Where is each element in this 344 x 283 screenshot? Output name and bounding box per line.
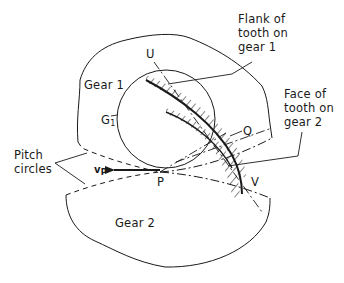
label-face-line2: tooth on — [284, 101, 334, 115]
label-flank-line1: Flank of — [238, 12, 288, 26]
label-face-line1: Face of — [284, 87, 334, 101]
label-vp-main: v — [94, 164, 101, 175]
label-g1-main: G — [101, 113, 110, 127]
label-face-line3: gear 2 — [284, 115, 334, 129]
label-flank-line2: tooth on — [238, 26, 288, 40]
gear1-pitch-dashed-left — [78, 142, 160, 172]
label-flank: Flank of tooth on gear 1 — [238, 12, 288, 54]
gear2-outline — [66, 195, 270, 267]
label-gear2: Gear 2 — [115, 216, 155, 230]
label-point-u: U — [146, 47, 155, 61]
label-vp: vP — [94, 163, 107, 180]
label-pitch-line2: circles — [14, 162, 52, 176]
gear2-pitch-dashed-left — [66, 172, 160, 195]
label-face: Face of tooth on gear 2 — [284, 87, 334, 129]
leader-pitch — [55, 153, 87, 184]
label-g1-sub: 1 — [110, 119, 115, 128]
gear-diagram — [0, 0, 344, 283]
label-point-q: Q — [243, 124, 252, 138]
leader-q — [230, 131, 242, 136]
label-point-v: V — [251, 175, 259, 189]
label-g1: G1 — [101, 113, 115, 131]
label-vp-sub: P — [101, 168, 107, 177]
label-gear1: Gear 1 — [84, 78, 124, 92]
label-pitch-circles: Pitch circles — [14, 148, 52, 176]
label-point-p: P — [157, 175, 164, 189]
label-flank-line3: gear 1 — [238, 40, 288, 54]
label-pitch-line1: Pitch — [14, 148, 52, 162]
